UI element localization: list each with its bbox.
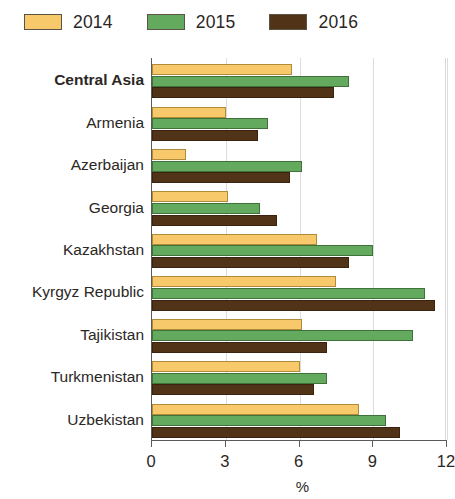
bar-group-georgia [152, 191, 445, 225]
x-axis-title-text: % [296, 478, 309, 495]
legend-label-2015: 2015 [196, 12, 236, 33]
bar-azerbaijan-2014 [152, 149, 186, 160]
tick-label-6: 6 [294, 452, 303, 471]
bar-kyrgyz-republic-2014 [152, 276, 336, 287]
bar-central-asia-2014 [152, 64, 292, 75]
bar-group-armenia [152, 107, 445, 141]
category-label-azerbaijan: Azerbaijan [0, 156, 144, 174]
category-label-turkmenistan: Turkmenistan [0, 368, 144, 386]
bar-kazakhstan-2016 [152, 257, 349, 268]
legend-entry-2015: 2015 [147, 12, 236, 33]
bar-tajikistan-2016 [152, 342, 327, 353]
bar-azerbaijan-2016 [152, 172, 290, 183]
tick-label-3: 3 [220, 452, 229, 471]
bar-kazakhstan-2015 [152, 245, 373, 256]
bar-uzbekistan-2014 [152, 404, 359, 415]
tick-label-12: 12 [437, 452, 455, 471]
bar-central-asia-2015 [152, 76, 349, 87]
legend-swatch-2015 [147, 14, 185, 30]
category-label-tajikistan: Tajikistan [0, 326, 144, 344]
tick-label-9: 9 [368, 452, 377, 471]
bar-uzbekistan-2015 [152, 415, 386, 426]
bar-kazakhstan-2014 [152, 234, 317, 245]
legend-swatch-2016 [269, 14, 307, 30]
category-label-kazakhstan: Kazakhstan [0, 241, 144, 259]
tickmark-9 [372, 441, 373, 447]
category-label-armenia: Armenia [0, 114, 144, 132]
bar-armenia-2015 [152, 118, 268, 129]
bar-uzbekistan-2016 [152, 427, 400, 438]
plot-area [151, 58, 446, 440]
category-axis-labels: Central AsiaArmeniaAzerbaijanGeorgiaKaza… [0, 0, 144, 499]
bar-kyrgyz-republic-2016 [152, 300, 435, 311]
gridline-12 [447, 58, 448, 440]
tickmark-12 [446, 441, 447, 447]
bar-tajikistan-2014 [152, 319, 302, 330]
category-label-georgia: Georgia [0, 199, 144, 217]
bar-georgia-2014 [152, 191, 228, 202]
legend-entry-2016: 2016 [269, 12, 358, 33]
tick-label-0: 0 [146, 452, 155, 471]
bar-group-turkmenistan [152, 361, 445, 395]
bar-group-azerbaijan [152, 149, 445, 183]
x-axis-title: % [0, 478, 453, 495]
bar-azerbaijan-2015 [152, 161, 302, 172]
bar-tajikistan-2015 [152, 330, 413, 341]
bar-turkmenistan-2016 [152, 384, 314, 395]
bar-group-tajikistan [152, 319, 445, 353]
bar-group-uzbekistan [152, 404, 445, 438]
bar-georgia-2015 [152, 203, 260, 214]
bar-georgia-2016 [152, 215, 277, 226]
bar-armenia-2014 [152, 107, 226, 118]
bar-turkmenistan-2015 [152, 373, 327, 384]
category-label-uzbekistan: Uzbekistan [0, 411, 144, 429]
tickmark-3 [225, 441, 226, 447]
bar-turkmenistan-2014 [152, 361, 300, 372]
bar-group-kyrgyz-republic [152, 276, 445, 310]
bar-group-central-asia [152, 64, 445, 98]
bar-central-asia-2016 [152, 87, 334, 98]
category-label-kyrgyz-republic: Kyrgyz Republic [0, 283, 144, 301]
bar-kyrgyz-republic-2015 [152, 288, 425, 299]
category-label-central-asia: Central Asia [0, 71, 144, 89]
bar-group-kazakhstan [152, 234, 445, 268]
legend-label-2016: 2016 [318, 12, 358, 33]
tickmark-6 [299, 441, 300, 447]
tickmark-0 [151, 441, 152, 447]
bar-armenia-2016 [152, 130, 258, 141]
